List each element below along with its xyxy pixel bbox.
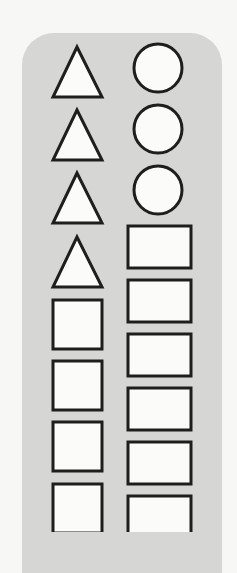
circle-shape [134, 44, 182, 92]
rectangle-shape [128, 442, 191, 484]
rectangle-shape [128, 226, 191, 268]
square-shape [53, 484, 102, 532]
triangle-shape [53, 110, 102, 160]
triangle-shape [53, 47, 102, 97]
rectangle-shape [128, 496, 191, 532]
square-shape [53, 361, 102, 410]
rectangle-shape [128, 280, 191, 322]
triangle-shape [53, 173, 102, 223]
rectangle-shape [128, 334, 191, 376]
circle-shape [134, 166, 182, 214]
square-shape [53, 422, 102, 471]
rectangle-shape [128, 388, 191, 430]
triangle-shape [53, 237, 102, 287]
circle-shape [134, 105, 182, 153]
square-shape [53, 300, 102, 349]
